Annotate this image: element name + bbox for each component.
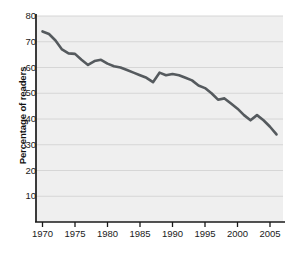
readership-line-chart: Percentage of readers 1020304050607080 1… bbox=[0, 0, 295, 257]
y-tick-label: 60 bbox=[14, 63, 36, 73]
y-tick-label: 50 bbox=[14, 88, 36, 98]
x-tick-label: 2005 bbox=[250, 228, 290, 239]
y-tick-label: 10 bbox=[14, 191, 36, 201]
plot-canvas bbox=[0, 0, 295, 257]
y-axis-tick-labels: 1020304050607080 bbox=[12, 0, 36, 257]
y-tick-label: 30 bbox=[14, 140, 36, 150]
y-tick-label: 70 bbox=[14, 37, 36, 47]
y-tick-label: 40 bbox=[14, 114, 36, 124]
y-tick-label: 20 bbox=[14, 166, 36, 176]
y-tick-label: 80 bbox=[14, 11, 36, 21]
